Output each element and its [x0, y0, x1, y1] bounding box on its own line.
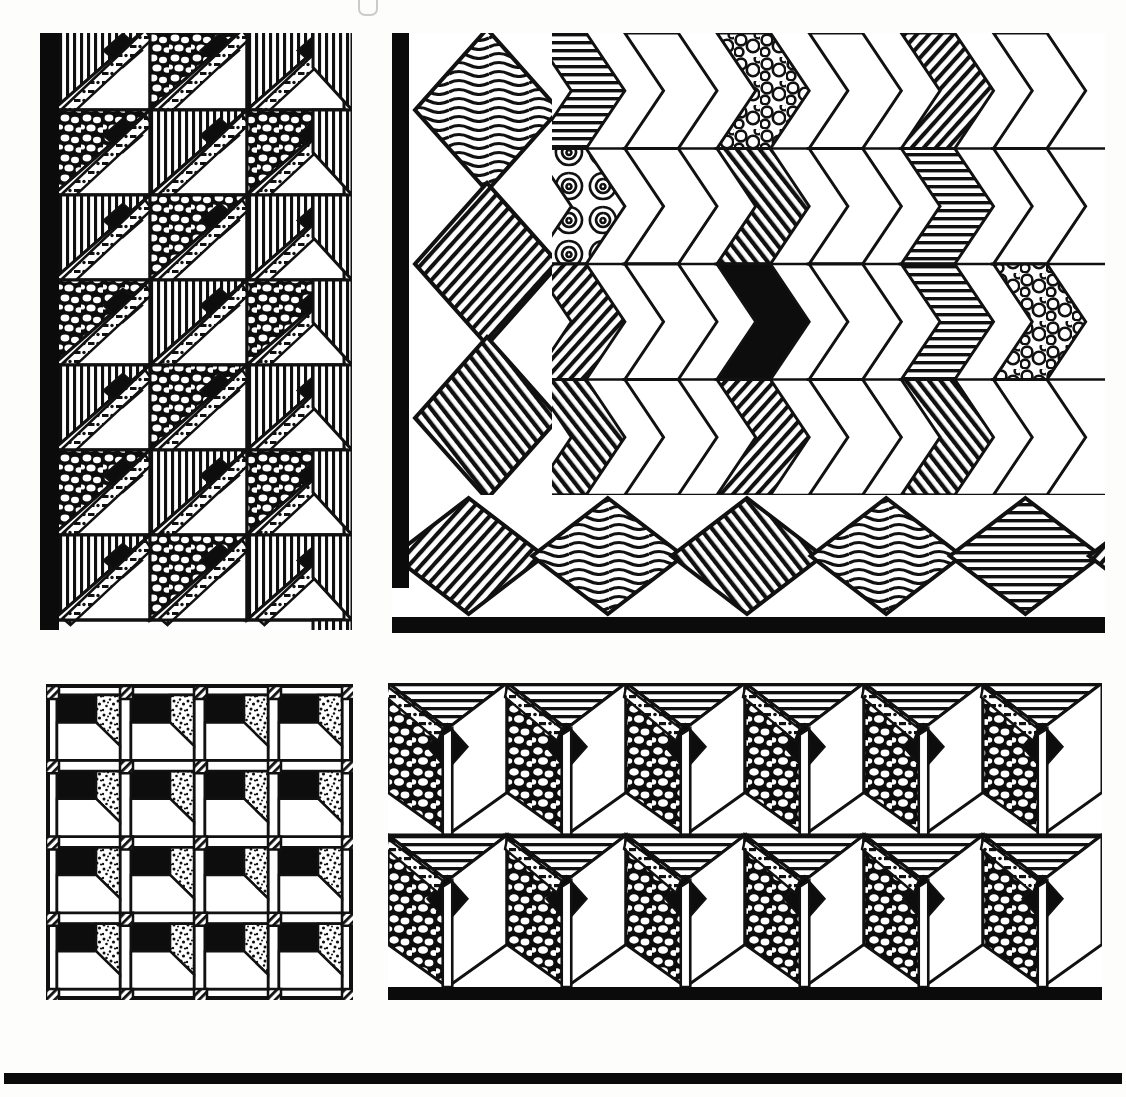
pattern-shape: [279, 771, 318, 798]
sashing-strip: [562, 881, 572, 987]
panel2-chevron-field: [552, 33, 1105, 495]
panel2-left-border: [392, 33, 409, 588]
pattern-shape: [194, 913, 207, 926]
pattern-shape: [57, 848, 96, 875]
pattern-shape: [268, 989, 281, 1000]
panel4-drawing: [388, 683, 1102, 987]
pattern-shape: [313, 620, 352, 630]
sashing-strip: [1038, 881, 1048, 987]
pattern-shape: [120, 989, 133, 1000]
pattern-shape: [120, 837, 133, 850]
pattern-shape: [46, 837, 59, 850]
sashing-strip: [681, 881, 691, 987]
pattern-shape: [194, 989, 207, 1000]
pattern-shape: [120, 686, 133, 699]
pattern-shape: [131, 924, 170, 951]
sashing-strip: [562, 729, 572, 835]
sashing-strip: [443, 881, 453, 987]
pattern-shape: [268, 913, 281, 926]
pattern-shape: [268, 837, 281, 850]
sashing-strip: [1038, 729, 1048, 835]
panel2-bottom-border: [392, 617, 1105, 633]
pattern-shape: [46, 760, 59, 773]
page-bottom-rule: [4, 1073, 1122, 1084]
pattern-shape: [57, 771, 96, 798]
sashing-strip: [800, 729, 810, 835]
pattern-shape: [268, 760, 281, 773]
pattern-shape: [205, 771, 244, 798]
panel3-drawing: [46, 684, 353, 1000]
pattern-shape: [342, 989, 353, 1000]
panel2-side-diamond-column: [409, 33, 559, 495]
sashing-strip: [681, 729, 691, 835]
pattern-shape: [120, 913, 133, 926]
pattern-shape: [194, 837, 207, 850]
panel2-bottom-diamond-border: [409, 495, 1105, 617]
pattern-shape: [205, 848, 244, 875]
panel1-left-border: [40, 33, 59, 630]
pattern-shape: [268, 686, 281, 699]
panel4-bottom-border: [388, 987, 1102, 1000]
pattern-shape: [46, 913, 59, 926]
sashing-strip: [800, 881, 810, 987]
plate-page: [0, 0, 1126, 1097]
panel-zigzag-column-quilt: [388, 683, 1102, 1000]
pattern-shape: [205, 695, 244, 722]
pattern-shape: [57, 924, 96, 951]
panel2-border-diamonds: [409, 495, 1105, 617]
pattern-shape: [279, 848, 318, 875]
pattern-shape: [46, 989, 59, 1000]
panel2-chevrons: [552, 33, 1105, 495]
scan-artifact-icon: [358, 0, 378, 16]
pattern-shape: [46, 686, 59, 699]
sashing-strip: [919, 881, 929, 987]
panel2-side-diamonds: [409, 33, 559, 495]
pattern-shape: [120, 760, 133, 773]
pattern-shape: [131, 771, 170, 798]
sashing-strip: [443, 729, 453, 835]
pattern-shape: [342, 686, 353, 699]
pattern-shape: [131, 848, 170, 875]
pattern-shape: [131, 695, 170, 722]
panel-diagonal-stripe-quilt: [40, 33, 352, 630]
pattern-shape: [57, 695, 96, 722]
pattern-shape: [205, 924, 244, 951]
panel-sashed-block-grid: [46, 684, 353, 1000]
pattern-shape: [342, 760, 353, 773]
panel1-drawing: [59, 33, 352, 630]
pattern-shape: [279, 924, 318, 951]
pattern-shape: [194, 686, 207, 699]
panel4-field: [388, 683, 1102, 987]
pattern-shape: [342, 913, 353, 926]
pattern-shape: [194, 760, 207, 773]
panel1-field: [59, 33, 352, 630]
pattern-shape: [342, 837, 353, 850]
panel-chevron-quilt: [392, 33, 1105, 633]
sashing-strip: [919, 729, 929, 835]
pattern-shape: [279, 695, 318, 722]
